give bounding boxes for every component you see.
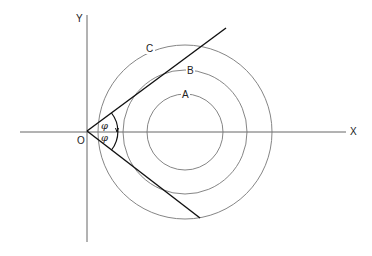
- y-axis-label: Y: [76, 13, 83, 24]
- angle-label-upper: φ: [101, 120, 108, 131]
- diagram-canvas: Y X O A B C φ φ: [0, 0, 372, 256]
- circle-b-label: B: [187, 65, 194, 76]
- x-axis-label: X: [350, 126, 357, 137]
- circle-a-label: A: [182, 89, 189, 100]
- circle-c-label: C: [146, 43, 153, 54]
- angle-label-lower: φ: [101, 132, 108, 143]
- origin-label: O: [77, 135, 85, 146]
- upper-tangent-line: [87, 28, 226, 131]
- diagram-svg: Y X O A B C φ φ: [0, 0, 372, 256]
- lower-tangent-line: [87, 131, 200, 218]
